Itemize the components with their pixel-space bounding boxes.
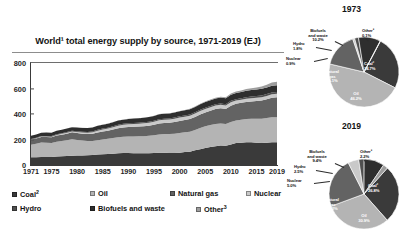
pie-slice-value: 46.2% [350, 97, 361, 102]
pie-slice-value: 5.0% [287, 184, 302, 189]
pie-slice-label: Nuclear0.9% [286, 57, 301, 66]
pie-slice-label: Biofuelsand waste9.4% [307, 150, 326, 164]
x-tick-label: 1980 [69, 167, 85, 176]
pie-slice-label: Hydro2.5% [294, 165, 306, 174]
legend-label: Hydro [20, 205, 41, 212]
chart-title: World¹ total energy supply by source, 19… [14, 36, 282, 46]
legend-item-coal[interactable]: Coal2 [12, 190, 39, 199]
area-chart-panel: World¹ total energy supply by source, 19… [0, 0, 288, 237]
legend-label: Coal2 [20, 190, 39, 199]
legend-item-nuclear[interactable]: Nuclear [246, 190, 281, 197]
stacked-area-series [31, 63, 277, 165]
pie-slice-value: 16.1% [325, 79, 339, 84]
legend-item-other[interactable]: Other3 [196, 205, 227, 214]
pie-slice-value: 0.9% [286, 62, 301, 67]
pie-slice-label: Biofuelsand waste10.2% [308, 29, 327, 43]
x-tick-label: 2000 [172, 167, 188, 176]
pie-slice-value: 1.8% [293, 47, 305, 52]
pie-slice-label: Naturalgas16.1% [325, 70, 339, 84]
x-tick-label: 1975 [44, 167, 60, 176]
x-tick-label: 2005 [197, 167, 213, 176]
plot-area: 0200400600800 19711975198019851990199520… [30, 62, 278, 166]
legend-label: Nuclear [254, 190, 281, 197]
pie-chart-1973: 1973 Coal²24.7%Oil46.2%Naturalgas16.1%Nu… [288, 0, 415, 118]
legend-label: Other3 [204, 205, 227, 214]
pie-chart-2019: 2019 Coal²26.8%Oil30.9%Naturalgas23.2%Nu… [288, 118, 415, 237]
pie-slice-label: Nuclear5.0% [287, 179, 302, 188]
pie-slice-label: Oil30.9% [358, 214, 369, 223]
pie-slice-name: Biofuelsand waste [308, 28, 327, 38]
x-tick-label: 2010 [223, 167, 239, 176]
pie-slice-name: Naturalgas [325, 69, 339, 79]
pie-slice-label: Oil46.2% [350, 92, 361, 101]
pie-slice-name: Naturalgas [325, 197, 339, 207]
pie-slice-label: Hydro1.8% [293, 42, 305, 51]
pie-1973-title: 1973 [288, 4, 415, 14]
y-tick-mark [30, 88, 34, 89]
pie-slice-value: 10.2% [308, 38, 327, 43]
y-tick-mark [30, 139, 34, 140]
pie-wedges [288, 14, 415, 117]
legend-swatch-icon [90, 206, 95, 211]
y-tick-label: 200 [14, 135, 26, 144]
x-tick-label: 1985 [95, 167, 111, 176]
y-tick-mark [30, 113, 34, 114]
pie-slice-value: 26.8% [368, 189, 379, 194]
pie-slice-label: Other³2.2% [360, 150, 372, 159]
legend-item-biofuels-and-waste[interactable]: Biofuels and waste [90, 205, 165, 212]
x-tick-label: 1971 [23, 167, 39, 176]
pie-slice-label: Coal²26.8% [368, 184, 379, 193]
pie-slice-value: 2.2% [360, 155, 372, 160]
y-tick-label: 800 [14, 59, 26, 68]
pie-slice-value: 23.2% [325, 207, 339, 212]
pie-slice-value: 24.7% [364, 67, 375, 72]
legend-item-natural-gas[interactable]: Natural gas [170, 190, 218, 197]
legend-footnote-marker: 2 [36, 189, 39, 195]
pie-slice-value: 30.9% [358, 219, 369, 224]
x-tick-label: 2019 [269, 167, 285, 176]
legend-swatch-icon [196, 207, 201, 212]
pie-slice-label: Coal²24.7% [364, 62, 375, 71]
legend-item-hydro[interactable]: Hydro [12, 205, 41, 212]
y-tick-label: 600 [14, 84, 26, 93]
pie-2019-title: 2019 [288, 121, 415, 131]
legend-swatch-icon [12, 206, 17, 211]
y-tick-label: 400 [14, 110, 26, 119]
legend-swatch-icon [90, 191, 95, 196]
x-tick-label: 1990 [120, 167, 136, 176]
legend-footnote-marker: 3 [224, 204, 227, 210]
pie-slice-value: 2.5% [294, 170, 306, 175]
x-tick-label: 2015 [249, 167, 265, 176]
pie-slice-name: Biofuelsand waste [307, 149, 326, 159]
pie-charts-panel: 1973 Coal²24.7%Oil46.2%Naturalgas16.1%Nu… [288, 0, 415, 237]
legend-label: Natural gas [178, 190, 218, 197]
legend-swatch-icon [12, 192, 17, 197]
pie-slice-value: 9.4% [307, 159, 326, 164]
legend-item-oil[interactable]: Oil [90, 190, 108, 197]
legend-swatch-icon [170, 191, 175, 196]
legend-label: Oil [98, 190, 108, 197]
pie-slice-value: 0.1% [362, 34, 374, 39]
title-divider [12, 52, 284, 53]
legend-label: Biofuels and waste [98, 205, 165, 212]
figure-root: World¹ total energy supply by source, 19… [0, 0, 415, 237]
pie-slice-label: Naturalgas23.2% [325, 198, 339, 212]
chart-legend: Coal2OilNatural gasNuclearHydroBiofuels … [10, 190, 288, 224]
pie-slice-label: Other³0.1% [362, 29, 374, 38]
legend-swatch-icon [246, 191, 251, 196]
x-tick-label: 1995 [146, 167, 162, 176]
